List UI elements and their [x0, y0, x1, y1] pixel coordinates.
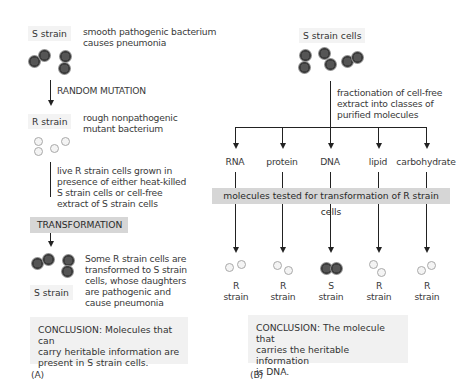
arrow-down-icon — [328, 247, 334, 253]
panel-b-label: (B) — [250, 369, 263, 380]
text-line: cause pneumonia — [85, 297, 187, 308]
text-line: carries the heritable information — [256, 344, 400, 366]
result-s-strain-label: S strain — [30, 285, 73, 300]
molecule-carbohydrate: carbohydrate — [393, 156, 459, 167]
s-cell-icon — [299, 49, 312, 62]
result-lipid: R strain — [355, 280, 403, 302]
random-mutation-label: RANDOM MUTATION — [57, 85, 146, 96]
r-cell-icon — [377, 268, 386, 277]
result-arrow-line — [235, 204, 236, 249]
arrow-down-icon — [328, 143, 334, 149]
text-line: cells, whose daughters — [85, 275, 187, 286]
text-line: Some R strain cells are — [85, 253, 187, 264]
r-cell-icon — [34, 137, 43, 146]
text-line: are pathogenic and — [85, 286, 187, 297]
arrow-down-icon — [233, 143, 239, 149]
result-rna: R strain — [212, 280, 260, 302]
s-cell-icon — [42, 253, 55, 266]
s-cell-icon — [351, 51, 364, 64]
text-line: strain — [259, 291, 307, 302]
text-line: presence of either heat-killed — [57, 176, 186, 187]
trunk-line — [330, 81, 331, 128]
text-line: purified molecules — [337, 109, 442, 120]
result-carbohydrate: R strain — [403, 280, 451, 302]
text-line: R — [403, 280, 451, 291]
r-strain-label: R strain — [28, 114, 71, 129]
text-line: strain — [355, 291, 403, 302]
result-arrow-line — [330, 204, 331, 249]
text-line: R — [355, 280, 403, 291]
text-line: extract into classes of — [337, 98, 442, 109]
conclusion-b: CONCLUSION: The molecule that carries th… — [248, 315, 408, 363]
s-cell-icon — [330, 262, 343, 275]
text-line: is DNA. — [256, 366, 400, 377]
text-line: rough nonpathogenic — [83, 112, 177, 123]
arrow-down-icon — [280, 247, 286, 253]
arrow-down-icon — [376, 143, 382, 149]
text-line: mutant bacterium — [83, 123, 177, 134]
result-arrow-line — [282, 204, 283, 249]
text-line: strain — [307, 291, 355, 302]
result-arrow-line — [426, 204, 427, 249]
fractionation-description: fractionation of cell-free extract into … — [337, 87, 442, 120]
conclusion-a: CONCLUSION: Molecules that can carry her… — [30, 317, 188, 364]
arrow-down-icon — [424, 247, 430, 253]
text-line: present in S strain cells. — [38, 357, 180, 368]
s-cell-icon — [59, 50, 72, 63]
s-cell-icon — [298, 61, 311, 74]
s-cell-icon — [324, 58, 337, 71]
r-cell-icon — [34, 147, 43, 156]
s-cell-icon — [58, 62, 71, 75]
s-cell-icon — [38, 49, 51, 62]
r-cell-icon — [50, 144, 59, 153]
test-banner: molecules tested for transformation of R… — [212, 188, 450, 204]
result-description: Some R strain cells are transformed to S… — [85, 253, 187, 308]
r-cell-icon — [225, 263, 234, 272]
r-cell-icon — [369, 260, 378, 269]
text-line: CONCLUSION: The molecule that — [256, 322, 400, 344]
text-line: fractionation of cell-free — [337, 87, 442, 98]
arrow-down-icon — [280, 143, 286, 149]
r-cell-icon — [273, 261, 282, 270]
result-arrow-line — [378, 204, 379, 249]
arrow-line — [50, 162, 51, 197]
r-cell-icon — [61, 137, 70, 146]
text-line: extract of S strain cells — [57, 198, 186, 209]
text-line: S — [307, 280, 355, 291]
text-line: S strain cells or cell-free — [57, 187, 186, 198]
text-line: R — [259, 280, 307, 291]
text-line: strain — [212, 291, 260, 302]
text-line: carry heritable information are — [38, 346, 180, 357]
text-line: causes pneumonia — [83, 37, 216, 48]
arrow-down-icon — [376, 247, 382, 253]
arrow-down-icon — [424, 143, 430, 149]
transformation-banner: TRANSFORMATION — [30, 217, 128, 233]
r-cell-icon — [417, 266, 426, 275]
arrow-down-icon — [48, 100, 54, 106]
text-line: R — [212, 280, 260, 291]
s-strain-description: smooth pathogenic bacterium causes pneum… — [83, 26, 216, 48]
text-line: live R strain cells grown in — [57, 165, 186, 176]
text-line: CONCLUSION: Molecules that can — [38, 324, 180, 346]
growth-description: live R strain cells grown in presence of… — [57, 165, 186, 209]
r-strain-description: rough nonpathogenic mutant bacterium — [83, 112, 177, 134]
arrow-down-icon — [48, 241, 54, 247]
r-cell-icon — [237, 260, 246, 269]
text-line: smooth pathogenic bacterium — [83, 26, 216, 37]
s-strain-label: S strain — [28, 26, 71, 41]
result-protein: R strain — [259, 280, 307, 302]
arrow-line — [50, 80, 51, 102]
r-cell-icon — [284, 266, 293, 275]
text-line: transformed to S strain — [85, 264, 187, 275]
s-cell-icon — [61, 265, 74, 278]
s-strain-cells-label: S strain cells — [299, 28, 365, 43]
result-dna: S strain — [307, 280, 355, 302]
panel-a-label: (A) — [31, 369, 44, 380]
text-line: strain — [403, 291, 451, 302]
r-cell-icon — [427, 261, 436, 270]
arrow-down-icon — [233, 247, 239, 253]
